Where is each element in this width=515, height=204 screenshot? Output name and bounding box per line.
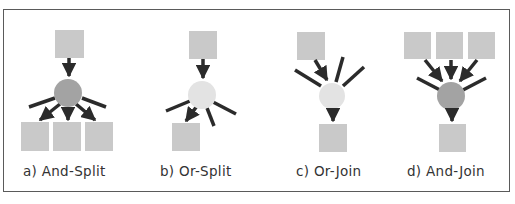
task-square-output	[172, 123, 200, 151]
arrow-icon	[40, 104, 60, 120]
branch-line	[417, 78, 440, 90]
or-node	[319, 83, 345, 109]
label-and-join: d) And-Join	[407, 163, 485, 179]
branch-line	[29, 98, 55, 107]
label-and-split: a) And-Split	[23, 163, 106, 179]
branch-line	[207, 108, 214, 126]
branch-line	[336, 57, 343, 82]
panel-or-join	[295, 32, 364, 152]
branch-line	[166, 101, 190, 111]
and-node	[437, 82, 465, 110]
task-square-output	[439, 124, 466, 152]
label-or-split: b) Or-Split	[160, 163, 232, 179]
task-square-input	[189, 31, 217, 59]
arrow-icon	[425, 60, 442, 81]
task-square-input	[404, 32, 431, 59]
panel-and-split	[21, 30, 113, 151]
branch-line	[463, 78, 486, 90]
branch-line	[295, 70, 321, 86]
panel-and-join	[404, 32, 495, 152]
task-square-output	[53, 122, 81, 151]
task-square-input	[468, 32, 495, 59]
task-square-input	[55, 30, 84, 58]
task-square-output	[85, 122, 113, 151]
label-or-join: c) Or-Join	[296, 163, 361, 179]
panel-or-split	[166, 31, 236, 151]
arrow-icon	[315, 60, 327, 80]
branch-line	[213, 102, 236, 114]
and-node	[54, 79, 82, 107]
task-square-input	[436, 32, 463, 59]
or-node	[188, 81, 216, 109]
task-square-input	[297, 32, 325, 60]
arrow-icon	[460, 60, 477, 81]
task-square-output	[21, 122, 49, 151]
branch-line	[82, 98, 106, 107]
branch-line	[343, 67, 364, 86]
arrow-icon	[76, 104, 95, 120]
arrow-icon	[186, 106, 197, 121]
task-square-output	[319, 124, 347, 152]
